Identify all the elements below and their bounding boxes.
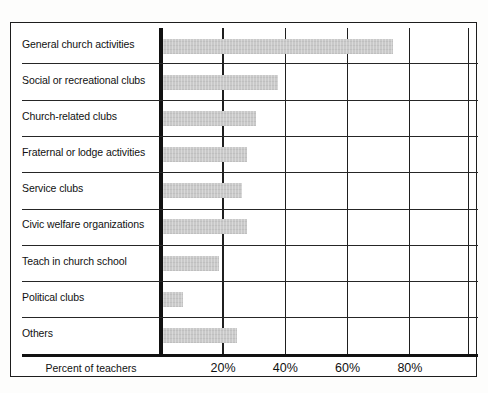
row-separator-5 [22,245,478,246]
xtick-label-20: 20% [210,361,235,375]
chart-screenshot: General church activities Social or recr… [0,0,488,393]
row-separator-6 [22,281,478,282]
gridline-60 [347,28,348,355]
row-separator-2 [22,136,478,137]
chart-frame: General church activities Social or recr… [10,22,477,377]
bar-6 [163,256,219,271]
bar-1 [163,75,278,90]
axis-baseline [22,354,478,357]
category-label-1: Social or recreational clubs [22,74,145,86]
row-separator-7 [22,317,478,318]
row-separator-4 [22,209,478,210]
category-label-8: Others [22,327,53,339]
gridline-40 [285,28,286,355]
bar-5 [163,219,247,234]
xtick-label-40: 40% [273,361,298,375]
bar-3 [163,147,247,162]
category-label-2: Church-related clubs [22,110,117,122]
category-label-6: Teach in church school [22,255,127,267]
axis-title: Percent of teachers [23,362,159,374]
plot-area: General church activities Social or recr… [11,23,476,350]
category-label-5: Civic welfare organizations [22,218,144,230]
row-separator-1 [22,100,478,101]
bar-4 [163,183,242,198]
xtick-label-60: 60% [335,361,360,375]
bar-2 [163,111,257,126]
gridline-80 [409,28,410,355]
category-label-4: Service clubs [22,182,83,194]
row-separator-3 [22,172,478,173]
category-label-0: General church activities [22,38,134,50]
category-label-7: Political clubs [22,291,84,303]
bar-7 [163,292,183,307]
gridline-right-edge [468,28,469,355]
row-separator-0 [22,63,478,64]
bar-8 [163,328,238,343]
category-label-3: Fraternal or lodge activities [22,146,145,158]
xtick-label-80: 80% [397,361,422,375]
bar-0 [163,39,394,54]
